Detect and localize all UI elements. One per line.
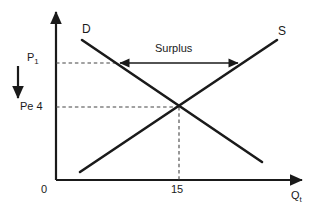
diagram-canvas <box>0 0 319 209</box>
price-label-pe-text: Pe <box>20 100 33 112</box>
price-label-pe: Pe 4 <box>20 101 43 112</box>
quantity-axis-label: Qt <box>291 190 302 204</box>
price-label-p1: P1 <box>27 52 39 66</box>
quantity-axis-label-subscript: t <box>300 195 302 204</box>
quantity-tick-label: 15 <box>171 184 183 195</box>
price-label-pe-value: 4 <box>37 100 43 112</box>
demand-curve-label: D <box>82 23 91 35</box>
quantity-axis-label-text: Q <box>291 189 300 201</box>
supply-demand-diagram: P1 Pe 4 0 15 Qt D S Surplus <box>0 0 319 209</box>
price-label-p1-subscript: 1 <box>34 57 38 66</box>
origin-label: 0 <box>41 184 47 195</box>
surplus-label: Surplus <box>155 43 192 54</box>
demand-curve <box>82 40 262 162</box>
supply-curve-label: S <box>278 25 286 37</box>
